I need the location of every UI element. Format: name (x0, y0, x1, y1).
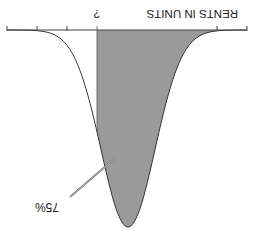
normal-curve-diagram: RENTS IN UNITS ? 75% (0, 0, 261, 244)
shaded-area (97, 30, 247, 227)
percent-label: 75% (35, 200, 59, 214)
cutoff-question-label: ? (94, 8, 100, 20)
axis-label: RENTS IN UNITS (146, 8, 238, 20)
